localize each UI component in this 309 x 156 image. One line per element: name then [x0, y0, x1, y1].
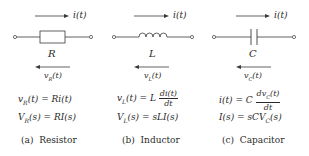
- derivative-fraction: dvC(t) dt: [256, 89, 281, 112]
- panel-resistor: i(t) R vR(t) vR(t) = Ri(t) VR(s) = RI(s)…: [0, 0, 103, 156]
- panel-capacitor: i(t) C vC(t) i(t) = C dvC(t) dt I(s) = s…: [201, 0, 304, 156]
- capacitor-circuit: [201, 0, 309, 80]
- voltage-label: vR(t): [44, 71, 62, 82]
- element-symbol-C: C: [249, 48, 257, 59]
- voltage-label: vC(t): [244, 71, 262, 82]
- time-domain-equation: i(t) = C dvC(t) dt: [219, 89, 280, 112]
- resistor-circuit: [0, 0, 103, 80]
- caption: (a) Resistor: [21, 135, 77, 145]
- time-domain-equation: vR(t) = Ri(t): [18, 94, 72, 106]
- caption: (c) Capacitor: [222, 135, 284, 145]
- laplace-equation: VL(s) = sLI(s): [117, 112, 178, 124]
- time-domain-equation: vL(t) = L di(t) dt: [117, 89, 178, 108]
- element-symbol-L: L: [149, 48, 156, 59]
- current-label: i(t): [73, 10, 87, 20]
- panel-inductor: i(t) L vL(t) vL(t) = L di(t) dt VL(s) = …: [101, 0, 204, 156]
- current-label: i(t): [274, 10, 288, 20]
- derivative-fraction: di(t) dt: [159, 89, 178, 108]
- laplace-equation: VR(s) = RI(s): [18, 112, 76, 124]
- current-label: i(t): [173, 10, 187, 20]
- laplace-equation: I(s) = sCVC(s): [219, 112, 282, 124]
- voltage-label: vL(t): [144, 71, 161, 82]
- element-symbol-R: R: [48, 48, 56, 59]
- inductor-circuit: [101, 0, 204, 80]
- caption: (b) Inductor: [122, 135, 180, 145]
